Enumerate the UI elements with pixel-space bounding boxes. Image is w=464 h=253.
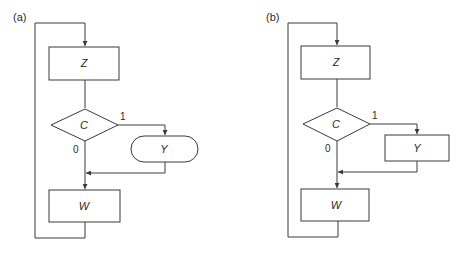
true-branch-label: 1 (120, 111, 126, 122)
edge-y-merge (86, 162, 165, 173)
process-z-label: Z (332, 56, 341, 68)
process-w-label: W (331, 199, 343, 211)
terminator-y-label: Y (160, 143, 168, 155)
false-branch-label: 0 (73, 144, 79, 155)
edge-y-merge (338, 161, 417, 172)
edge-c-true-to-y (118, 125, 165, 135)
false-branch-label: 0 (325, 143, 331, 154)
process-z-label: Z (80, 57, 89, 69)
panel-a-label: (a) (13, 11, 26, 23)
panel-b: (b) Z C 1 Y 0 W (266, 11, 449, 237)
process-w-label: W (79, 200, 91, 212)
decision-c-label: C (332, 118, 340, 130)
true-branch-label: 1 (372, 110, 378, 121)
decision-c-label: C (80, 119, 88, 131)
process-y-label: Y (413, 142, 421, 154)
panel-b-label: (b) (266, 11, 279, 23)
flowchart-figure: (a) Z C 1 Y 0 W (b) Z (0, 0, 464, 253)
edge-c-true-to-y (370, 124, 417, 134)
panel-a: (a) Z C 1 Y 0 W (13, 11, 198, 238)
